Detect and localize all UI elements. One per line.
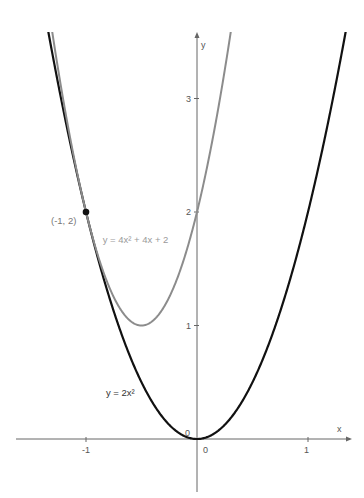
x-tick-label: 1 bbox=[304, 445, 309, 455]
graph-canvas: -1112300 x y (-1, 2) y = 2x²y = 4x² + 4x… bbox=[0, 0, 364, 498]
curve-4x-squared-plus-4x-plus-2 bbox=[8, 0, 358, 326]
y-tick-label: 3 bbox=[186, 94, 191, 104]
y-tick-label: 1 bbox=[186, 321, 191, 331]
x-axis-label: x bbox=[337, 424, 342, 434]
curve-label: y = 4x² + 4x + 2 bbox=[103, 234, 169, 245]
x-tick-label: -1 bbox=[82, 445, 90, 455]
y-tick-label: 2 bbox=[186, 207, 191, 217]
y-axis-label: y bbox=[201, 40, 206, 50]
curve-label: y = 2x² bbox=[106, 387, 135, 398]
points: (-1, 2) bbox=[51, 209, 89, 226]
origin-x-label: 0 bbox=[203, 445, 208, 455]
point-label: (-1, 2) bbox=[51, 215, 76, 226]
x-axis-arrow-icon bbox=[346, 437, 352, 442]
point-marker bbox=[83, 209, 90, 216]
y-axis-arrow-icon bbox=[195, 32, 200, 38]
